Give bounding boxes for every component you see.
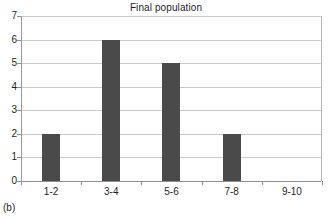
x-tick-label: 3-4 <box>81 185 141 198</box>
x-tick-label: 1-2 <box>21 185 81 198</box>
bar-slot <box>21 16 81 181</box>
x-tick-label: 9-10 <box>262 185 322 198</box>
x-tick-label: 7-8 <box>202 185 262 198</box>
bar[interactable] <box>102 40 120 181</box>
y-axis: 01234567 <box>0 16 17 181</box>
y-tick-label: 1 <box>0 152 17 162</box>
bars-layer <box>21 16 322 181</box>
y-tick-label: 5 <box>0 58 17 68</box>
y-tick-label: 4 <box>0 82 17 92</box>
y-tick-label: 0 <box>0 176 17 186</box>
y-tick-label: 6 <box>0 35 17 45</box>
figure-panel-b: Final population 01234567 1-23-45-67-89-… <box>0 0 332 221</box>
figure-caption: (b) <box>3 201 15 214</box>
bar-slot <box>81 16 141 181</box>
chart-title: Final population <box>0 1 332 14</box>
bar[interactable] <box>223 134 241 181</box>
bar[interactable] <box>42 134 60 181</box>
x-tick-mark <box>322 181 323 185</box>
y-tick-label: 2 <box>0 129 17 139</box>
y-tick-label: 3 <box>0 105 17 115</box>
bar[interactable] <box>162 63 180 181</box>
bar-slot <box>202 16 262 181</box>
bar-slot <box>141 16 201 181</box>
x-axis: 1-23-45-67-89-10 <box>21 185 322 199</box>
bar-slot <box>262 16 322 181</box>
x-tick-label: 5-6 <box>141 185 201 198</box>
y-tick-label: 7 <box>0 11 17 21</box>
